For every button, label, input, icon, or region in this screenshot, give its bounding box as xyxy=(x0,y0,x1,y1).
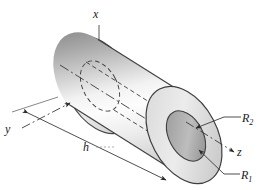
x-axis-label: x xyxy=(92,7,99,21)
hollow-cylinder-diagram: x xyxy=(0,0,272,190)
y-axis-label: y xyxy=(4,122,11,136)
height-extension-line-left xyxy=(12,97,58,112)
inner-radius-subscript: 1 xyxy=(248,175,252,184)
figure-root: x xyxy=(0,0,272,190)
outer-radius-label: R2 xyxy=(241,111,253,127)
y-axis: y xyxy=(4,103,70,136)
inner-radius-label: R1 xyxy=(240,168,252,184)
outer-radius-subscript: 2 xyxy=(249,118,253,127)
z-axis-label: z xyxy=(236,145,242,159)
height-dimension-label: h xyxy=(83,140,89,154)
